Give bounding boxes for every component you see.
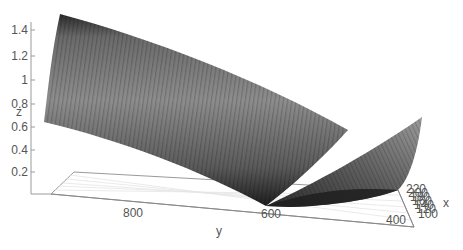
z-tick-label: 0.2	[11, 165, 28, 179]
y-axis-label: y	[216, 224, 222, 238]
z-tick-label: 1	[21, 73, 28, 87]
z-tick-label: 1.2	[11, 49, 28, 63]
x-tick-label: 100	[418, 207, 438, 221]
x-axis: 220 200 180 160 140 120 100 x	[406, 182, 449, 221]
surface-plot: 1.4 1.2 1 0.8 0.6 0.4 0.2 z 800 600 400 …	[0, 0, 463, 250]
x-axis-label: x	[443, 196, 449, 210]
y-tick-label: 600	[261, 207, 281, 221]
z-axis-label: z	[16, 105, 22, 119]
z-axis: 1.4 1.2 1 0.8 0.6 0.4 0.2 z	[11, 22, 51, 194]
z-tick-label: 0.6	[11, 120, 28, 134]
y-tick-label: 800	[123, 206, 143, 220]
y-tick-label: 400	[386, 213, 406, 227]
z-tick-label: 1.4	[11, 23, 28, 37]
z-tick-label: 0.4	[11, 143, 28, 157]
